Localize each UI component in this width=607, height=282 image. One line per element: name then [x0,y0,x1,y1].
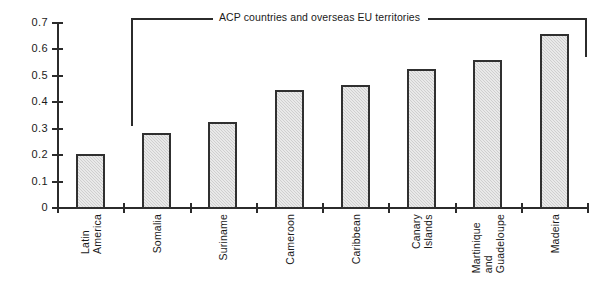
x-tick-boundary-8 [587,203,589,213]
bar-somalia[interactable] [142,133,171,209]
y-axis-label-1: 0.6 [4,43,48,54]
x-label-line: Suriname [217,214,229,261]
x-label-box-latin-america: Latin America [76,214,105,280]
x-label-line: Canary [410,214,422,249]
y-tick-0.1 [52,181,63,183]
y-axis-label-4: 0.3 [4,123,48,134]
bar-latin-america[interactable] [76,154,105,209]
x-label-line: Caribbean [350,214,362,264]
y-tick-0.4 [52,101,63,103]
x-label-line: Martinique [470,214,482,273]
group-bracket-label: ACP countries and overseas EU territorie… [219,11,420,23]
bar-chart: ACP countries and overseas EU territorie… [0,0,607,282]
x-label-box-suriname: Suriname [208,214,237,280]
bar-suriname[interactable] [208,122,237,209]
x-label-box-madeira: Madeira [540,214,569,280]
x-tick-boundary-4 [322,203,324,213]
x-label-line: Latin [79,214,91,254]
x-label-line: Islands [422,214,434,249]
x-label-box-somalia: Somalia [142,214,171,280]
group-bracket-right-arm [428,18,587,20]
y-axis-label-3: 0.4 [4,96,48,107]
y-axis-label-6: 0.1 [4,176,48,187]
x-label-line: Madeira [549,214,561,253]
bar-cameroon[interactable] [275,90,304,209]
x-tick-boundary-0 [57,203,59,213]
y-axis-label-2: 0.5 [4,70,48,81]
x-label-box-canary-islands: Canary Islands [407,214,436,280]
group-bracket-left-arm [131,18,213,20]
y-tick-0.3 [52,128,63,130]
bar-madeira[interactable] [540,34,569,209]
x-tick-boundary-5 [388,203,390,213]
group-bracket-right-stem [585,18,587,57]
x-label-line: America [91,214,103,254]
x-label-box-caribbean: Caribbean [341,214,370,280]
x-tick-boundary-2 [190,203,192,213]
bar-caribbean[interactable] [341,85,370,209]
x-label-line: and [482,214,494,273]
x-label-box-martinique-guadeloupe: Martinique and Guadeloupe [473,214,502,280]
y-axis-label-5: 0.2 [4,149,48,160]
x-label-box-cameroon: Cameroon [275,214,304,280]
y-tick-0.2 [52,154,63,156]
x-tick-boundary-3 [256,203,258,213]
y-tick-0.6 [52,48,63,50]
y-axis-label-7: 0 [4,202,48,213]
x-tick-boundary-1 [123,203,125,213]
x-label-line: Cameroon [284,214,296,265]
bar-canary-islands[interactable] [407,69,436,209]
x-label-line: Somalia [151,214,163,253]
x-label-line: Guadeloupe [494,214,506,273]
bar-martinique-guadeloupe[interactable] [473,60,502,209]
y-axis-label-0: 0.7 [4,17,48,28]
y-tick-0.7 [52,22,63,24]
y-tick-0.5 [52,75,63,77]
x-tick-boundary-6 [455,203,457,213]
group-bracket-left-stem [131,18,133,126]
x-tick-boundary-7 [521,203,523,213]
